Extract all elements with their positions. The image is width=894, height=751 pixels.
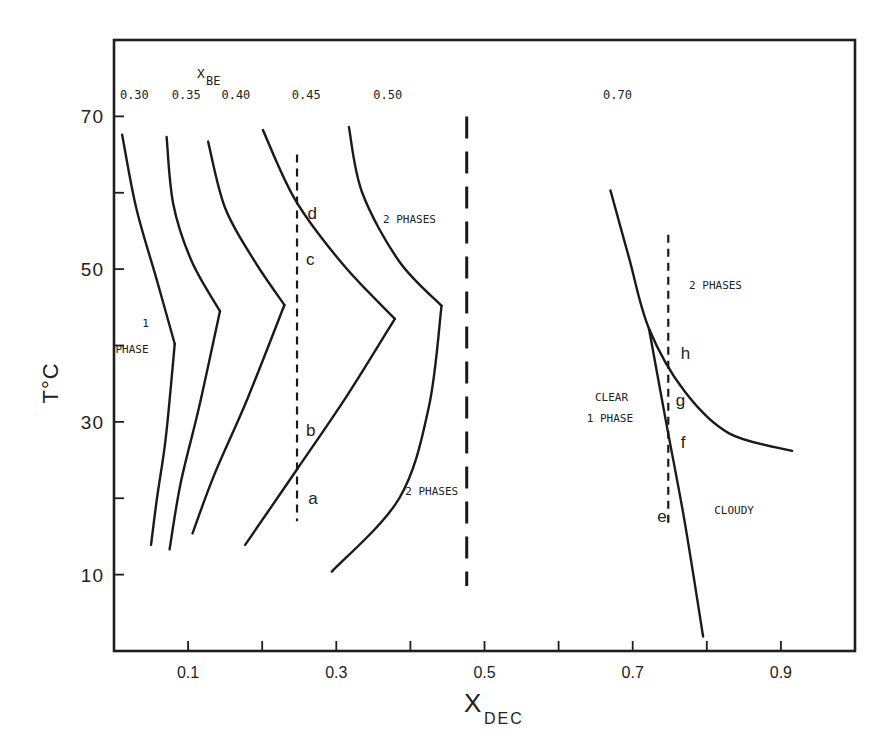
y-tick-label: 50 (81, 259, 104, 280)
series-label: 0.45 (292, 88, 321, 102)
curve-upper-branch (263, 130, 395, 319)
series-labels: 0.300.350.400.450.500.70 (120, 88, 632, 102)
x-axis-title-main: X (464, 688, 482, 718)
point-label-b: b (306, 421, 315, 440)
curve-xbe-0.70 (610, 190, 792, 636)
x-tick-label: 0.3 (325, 664, 347, 681)
curve-xbe-0.30 (122, 135, 175, 545)
x-tick-label: 0.5 (473, 664, 495, 681)
series-label: 0.50 (373, 88, 402, 102)
curve-lower-branch (245, 319, 395, 545)
point-label-a: a (308, 489, 318, 508)
curve-lower-branch (170, 311, 220, 549)
point-label-g: g (676, 391, 685, 410)
y-tick-label: 10 (81, 565, 104, 586)
point-label-c: c (306, 250, 315, 269)
series-label: 0.35 (172, 88, 201, 102)
x-tick-label: 0.7 (622, 664, 644, 681)
region-annotation: 1 PHASE (587, 412, 633, 425)
phase-diagram-chart: 0.10.30.50.70.9 70503010 0.300.350.400.4… (0, 0, 894, 751)
x-axis-title-subscript: DEC (484, 710, 524, 727)
y-axis-title: T°C (38, 362, 63, 403)
point-label-h: h (681, 344, 690, 363)
series-group-label-main: X (197, 66, 205, 81)
curve-lower-branch (151, 344, 175, 545)
curve-upper-branch (610, 190, 792, 450)
point-label-d: d (307, 204, 316, 223)
series-group-label-subscript: BE (206, 74, 220, 88)
plot-frame (114, 40, 855, 651)
region-annotation: CLOUDY (714, 504, 754, 517)
point-label-f: f (681, 433, 686, 452)
region-annotation: 2 PHASES (689, 279, 742, 292)
curve-xbe-0.50 (332, 127, 442, 572)
reference-lines (297, 116, 668, 586)
x-tick-label: 0.1 (177, 664, 199, 681)
region-annotation: 1 (142, 317, 149, 330)
region-annotation: 2 PHASES (405, 485, 458, 498)
y-tick-label: 30 (81, 412, 104, 433)
plot-border (114, 40, 855, 651)
curve-lower-branch (649, 329, 703, 637)
region-annotation: PHASE (115, 343, 148, 356)
curve-lower-branch (332, 306, 442, 572)
series-label: 0.30 (120, 88, 149, 102)
region-annotation: CLEAR (595, 391, 628, 404)
x-axis-title: X DEC (464, 688, 524, 727)
curve-upper-branch (122, 135, 175, 344)
curve-xbe-0.45 (245, 130, 395, 545)
series-group-label: X BE (197, 66, 220, 88)
x-axis-ticks: 0.10.30.50.70.9 (177, 641, 792, 681)
series-label: 0.40 (221, 88, 250, 102)
y-axis-title-text: T°C (38, 362, 63, 403)
series-curves (122, 127, 792, 636)
curve-xbe-0.40 (193, 142, 285, 534)
y-tick-label: 70 (81, 106, 104, 127)
series-label: 0.70 (603, 88, 632, 102)
x-tick-label: 0.9 (770, 664, 792, 681)
point-labels: dcbahgfe (306, 204, 690, 526)
curve-lower-branch (193, 305, 285, 533)
curve-upper-branch (208, 142, 284, 305)
point-label-e: e (657, 507, 666, 526)
region-annotation: 2 PHASES (383, 213, 436, 226)
